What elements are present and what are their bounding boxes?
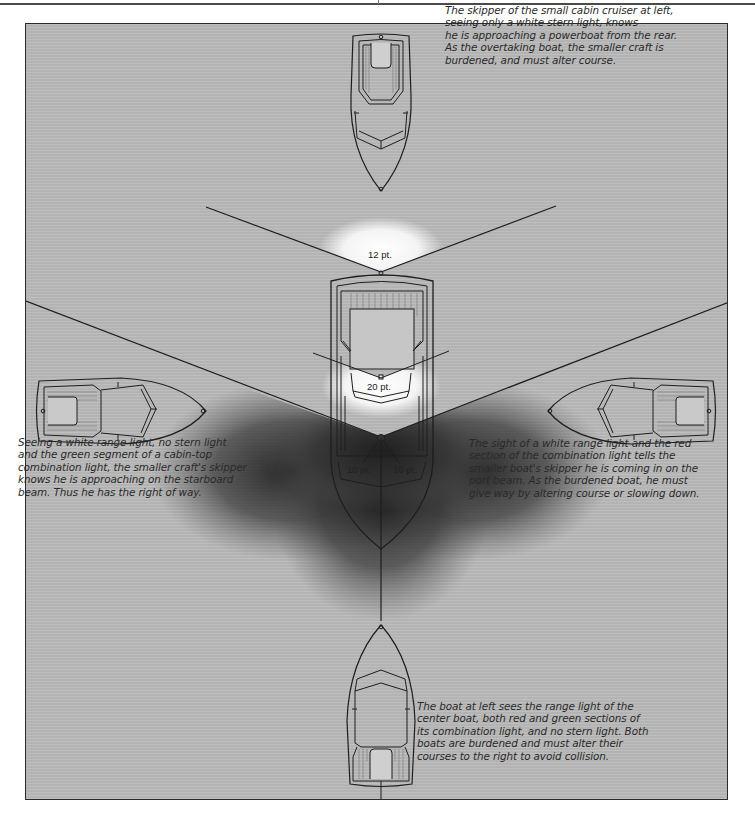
caption-port-beam: The sight of a white range light and the… xyxy=(469,437,709,499)
caption-starboard-beam: Seeing a white range light, no stern lig… xyxy=(18,436,258,498)
diagram-frame xyxy=(25,23,728,800)
stern-light-label: 12 pt. xyxy=(368,249,392,260)
caption-head-on: The boat at left sees the range light of… xyxy=(417,700,667,762)
starboard-combination-light-label: 10 pt. xyxy=(393,464,417,475)
navigation-lights-diagram xyxy=(25,23,728,800)
page-top-tick xyxy=(378,0,379,4)
range-light-label: 20 pt. xyxy=(367,381,391,392)
port-combination-light-label: 10 pt. xyxy=(347,464,371,475)
boat-bottom-head-on xyxy=(347,625,415,800)
caption-overtaking: The skipper of the small cabin cruiser a… xyxy=(445,4,715,66)
boat-top-overtaking xyxy=(351,34,411,191)
